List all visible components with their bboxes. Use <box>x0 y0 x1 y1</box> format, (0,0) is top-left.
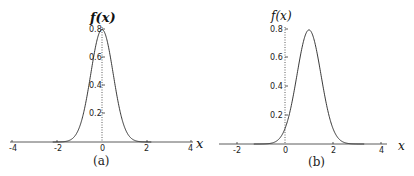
ytick-label: 0.4 <box>270 82 283 91</box>
caption: (a) <box>93 154 110 168</box>
xtick-label: 4 <box>379 146 384 155</box>
x-axis-label: x <box>398 139 405 153</box>
xtick-label: 2 <box>144 144 149 153</box>
y-ticks <box>102 29 105 113</box>
x-axis-label: x <box>196 136 204 151</box>
y-axis-label: f(x) <box>270 9 292 23</box>
xtick-label: 0 <box>283 146 288 155</box>
y-axis-label: f(x) <box>89 10 116 25</box>
ytick-label: 0.8 <box>89 25 102 34</box>
figure: 0.8 0.6 0.4 0.2 -4 -2 0 2 4 x f(x) (a) 0… <box>0 0 414 176</box>
y-ticks <box>285 29 288 115</box>
xtick-label: -2 <box>54 144 62 153</box>
panel-a: 0.8 0.6 0.4 0.2 -4 -2 0 2 4 x f(x) (a) <box>9 10 204 168</box>
ytick-label: 0.2 <box>270 111 283 120</box>
ytick-label: 0.6 <box>89 53 102 62</box>
ytick-label: 0.8 <box>270 25 283 34</box>
xtick-label: -4 <box>9 144 17 153</box>
ytick-label: 0.4 <box>89 81 102 90</box>
panel-b: 0.8 0.6 0.4 0.2 -2 0 2 4 x f(x) (b) <box>219 9 405 169</box>
ytick-label: 0.6 <box>270 53 283 62</box>
ytick-label: 0.2 <box>89 109 102 118</box>
caption: (b) <box>308 155 325 169</box>
xtick-label: 4 <box>188 144 193 153</box>
xtick-label: -2 <box>233 146 241 155</box>
xtick-label: 0 <box>100 144 105 153</box>
xtick-label: 2 <box>331 146 336 155</box>
